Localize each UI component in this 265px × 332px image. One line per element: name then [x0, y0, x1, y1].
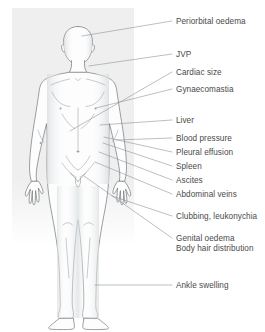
callout-label-gynaecomastia[interactable]: Gynaecomastia	[176, 85, 234, 95]
clinical-signs-diagram: Periorbital oedema JVP Cardiac size Gyna…	[0, 0, 265, 332]
head-shading	[64, 27, 93, 64]
callout-label-ascites[interactable]: Ascites	[176, 176, 203, 186]
callout-label-cardiac-size[interactable]: Cardiac size	[176, 68, 222, 78]
callout-label-clubbing-leukonychia[interactable]: Clubbing, leukonychia	[176, 212, 257, 222]
foot-right	[83, 318, 109, 329]
foot-left	[49, 318, 75, 329]
callout-label-spleen[interactable]: Spleen	[176, 162, 202, 172]
callout-label-abdominal-veins[interactable]: Abdominal veins	[176, 190, 237, 200]
leg-shading-left	[57, 186, 78, 318]
callout-label-periorbital-oedema[interactable]: Periorbital oedema	[176, 17, 246, 27]
nipple-left	[60, 108, 62, 110]
callout-label-pleural-effusion[interactable]: Pleural effusion	[176, 148, 233, 158]
callout-label-jvp[interactable]: JVP	[176, 50, 191, 60]
callout-label-ankle-swelling[interactable]: Ankle swelling	[176, 281, 229, 291]
callout-label-body-hair-distribution[interactable]: Body hair distribution	[176, 244, 254, 254]
callout-label-blood-pressure[interactable]: Blood pressure	[176, 134, 232, 144]
elbow-mark-left	[40, 142, 42, 144]
leg-shading-right	[78, 186, 99, 318]
umbilicus	[77, 150, 80, 152]
callout-label-genital-oedema[interactable]: Genital oedema	[176, 234, 235, 244]
callout-label-liver[interactable]: Liver	[176, 116, 194, 126]
